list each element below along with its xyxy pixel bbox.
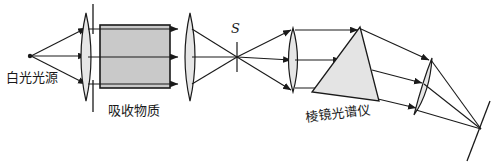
- ray-converge-lower: [192, 57, 237, 84]
- slit-label: S: [231, 21, 240, 36]
- absorber-label: 吸收物质: [108, 103, 160, 118]
- optical-diagram: S 白光光源 吸收物质 棱镜光谱仪: [0, 0, 501, 165]
- ray-slit-axis: [237, 57, 291, 60]
- ray-prism-out-upper: [361, 29, 429, 60]
- ray-slit-upper: [237, 30, 291, 57]
- dispersing-prism: [312, 27, 379, 101]
- camera-lens-4: [414, 58, 432, 115]
- source-label: 白光光源: [6, 70, 58, 85]
- spectrometer-label: 棱镜光谱仪: [305, 102, 371, 125]
- ray-slit-lower: [237, 57, 291, 90]
- ray-prism-out-lower: [378, 99, 416, 108]
- ray-focus-lower: [416, 110, 481, 129]
- ray-prism-out-axis: [372, 70, 422, 83]
- observation-screen: [467, 101, 490, 161]
- ray-focus-axis: [424, 84, 481, 129]
- ray-source-upper: [31, 28, 86, 56]
- ray-focus-upper: [431, 60, 481, 129]
